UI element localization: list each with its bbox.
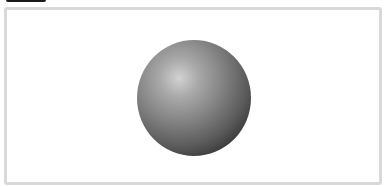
shaded-sphere-image <box>137 40 251 156</box>
cropped-header-tab <box>6 0 46 2</box>
